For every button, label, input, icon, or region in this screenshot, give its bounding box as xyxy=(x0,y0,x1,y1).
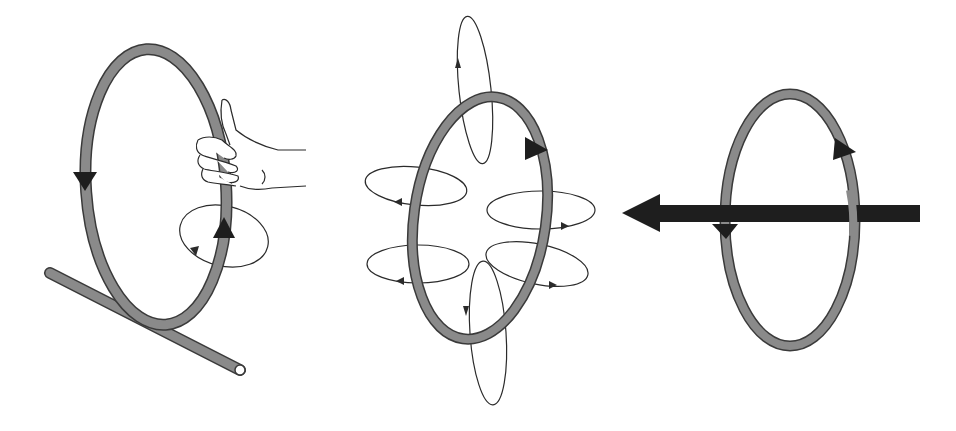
diagram-canvas: Magnetic field around a current-carrying… xyxy=(0,0,956,431)
current-arrow-down-icon xyxy=(73,172,97,191)
panel-field-lines xyxy=(363,15,595,406)
current-loop xyxy=(398,88,563,348)
field-arrow-right-icon xyxy=(561,222,569,230)
panel-net-field xyxy=(622,94,920,346)
current-loop xyxy=(77,44,236,329)
field-arrow-left-icon xyxy=(396,277,404,285)
panel-right-hand-grip xyxy=(50,44,306,375)
wire-end-icon xyxy=(235,365,245,375)
field-arrow-down-icon xyxy=(463,306,469,316)
field-arrow-right-icon xyxy=(549,281,557,289)
field-line-top xyxy=(451,15,498,166)
field-arrow-left-icon xyxy=(394,198,402,206)
net-field-arrow-icon xyxy=(622,194,920,232)
field-arrow-up-icon xyxy=(455,58,461,68)
current-arrow-down-icon xyxy=(712,224,738,239)
